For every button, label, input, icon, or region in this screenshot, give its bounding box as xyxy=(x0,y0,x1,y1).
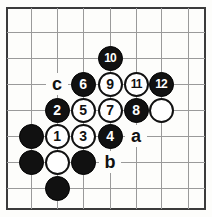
stone-number: 12 xyxy=(155,78,166,90)
stone-black-plain-left-lower[interactable] xyxy=(19,150,44,175)
stone-11[interactable]: 11 xyxy=(124,72,149,97)
point-label-a[interactable]: a xyxy=(125,125,147,147)
stone-4[interactable]: 4 xyxy=(98,124,123,149)
stone-black-plain-bottom[interactable] xyxy=(45,176,70,201)
stone-number: 2 xyxy=(53,103,60,117)
gridline-vertical-6 xyxy=(188,8,189,209)
point-label-b[interactable]: b xyxy=(99,151,121,173)
stone-number: 3 xyxy=(79,129,86,143)
stone-number: 9 xyxy=(106,77,113,91)
stone-6[interactable]: 6 xyxy=(71,72,96,97)
go-diagram-root: 106911122578134 cab xyxy=(0,0,212,217)
stone-8[interactable]: 8 xyxy=(124,98,149,123)
stone-10[interactable]: 10 xyxy=(98,46,123,71)
stone-white-plain-right[interactable] xyxy=(149,98,174,123)
stone-7[interactable]: 7 xyxy=(98,98,123,123)
stone-number: 8 xyxy=(132,103,139,117)
go-board: 106911122578134 cab xyxy=(0,0,212,217)
stone-number: 1 xyxy=(53,129,60,143)
gridline-horizontal-6 xyxy=(7,188,205,189)
stone-white-plain-lower[interactable] xyxy=(45,150,70,175)
stone-number: 4 xyxy=(106,129,113,143)
stone-number: 5 xyxy=(79,103,86,117)
gridline-vertical-0 xyxy=(31,8,32,209)
stone-3[interactable]: 3 xyxy=(71,124,96,149)
stone-2[interactable]: 2 xyxy=(45,98,70,123)
stone-number: 10 xyxy=(104,52,115,64)
stone-12[interactable]: 12 xyxy=(149,72,174,97)
gridline-horizontal-0 xyxy=(7,32,205,33)
stone-number: 6 xyxy=(79,77,86,91)
stone-black-plain-left-upper[interactable] xyxy=(19,124,44,149)
stone-5[interactable]: 5 xyxy=(71,98,96,123)
stone-9[interactable]: 9 xyxy=(98,72,123,97)
point-label-c[interactable]: c xyxy=(46,73,68,95)
stone-black-plain-lower[interactable] xyxy=(71,150,96,175)
stone-number: 11 xyxy=(131,78,142,90)
stone-number: 7 xyxy=(106,103,113,117)
stone-1[interactable]: 1 xyxy=(45,124,70,149)
